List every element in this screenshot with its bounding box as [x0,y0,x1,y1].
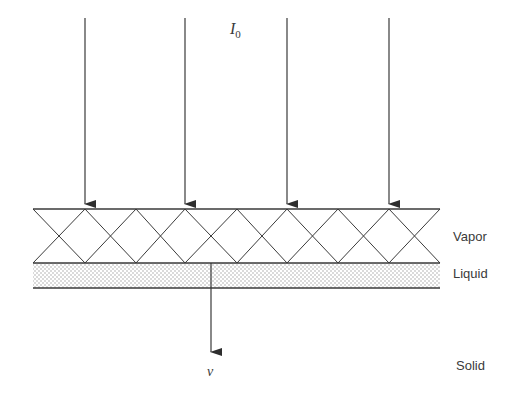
incident-arrows [85,18,389,204]
diagram-canvas: I0 Vapor Liquid Solid v [0,0,530,405]
diagram-svg [0,0,530,405]
vapor-label: Vapor [453,229,487,244]
reflection-lattice [33,209,440,263]
zigzag-up-down [33,209,440,263]
liquid-label: Liquid [453,266,488,281]
solid-label: Solid [456,358,485,373]
liquid-layer [33,263,440,288]
incident-intensity-label: I0 [230,20,241,40]
velocity-label: v [207,364,213,380]
incident-label-subscript: 0 [235,28,241,40]
zigzag-down-up [33,209,440,263]
